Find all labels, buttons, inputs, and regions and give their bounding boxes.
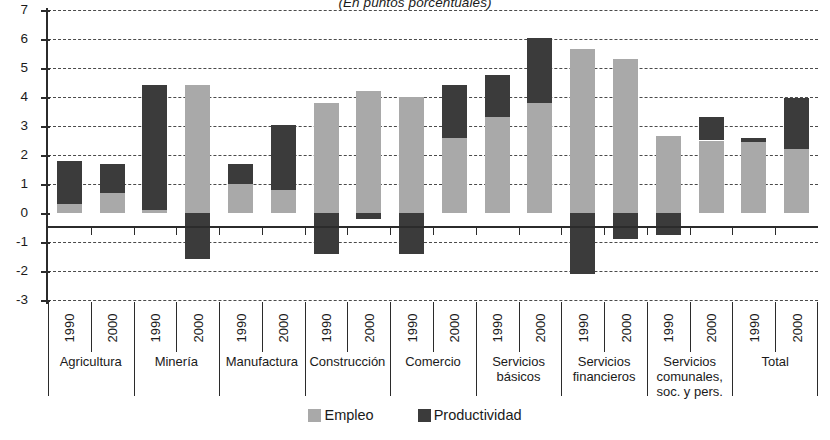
bar-segment-empleo [57,204,82,213]
axis-divider-inner [775,302,776,352]
axis-divider-group [305,302,306,396]
bar-segment-empleo [399,97,424,213]
bar [527,10,552,300]
year-axis-label-cell: 2000 [528,304,552,352]
bar [271,10,296,300]
year-axis-label-cell: 2000 [100,304,124,352]
y-axis-tick-mark [41,271,50,273]
bar-segment-empleo [356,91,381,213]
year-axis-label-cell: 1990 [656,304,680,352]
year-axis-label-cell: 1990 [229,304,253,352]
year-axis-label-cell: 1990 [314,304,338,352]
y-axis-tick-mark [41,68,50,70]
legend-item[interactable]: Productividad [418,408,522,423]
bar [100,10,125,300]
year-axis-label: 2000 [106,314,119,343]
legend-item[interactable]: Empleo [308,408,373,423]
year-axis-label: 1990 [662,314,675,343]
bar-segment-empleo [185,85,210,213]
year-axis-label-cell: 1990 [57,304,81,352]
bar-segment-productividad [228,164,253,184]
bar-segment-productividad [741,138,766,142]
y-axis-tick-mark [41,184,50,186]
category-label: Agricultura [48,355,134,370]
axis-divider-group [219,302,220,396]
bar-segment-productividad [527,38,552,103]
axis-divider-inner [690,302,691,352]
year-axis-label-cell: 2000 [186,304,210,352]
year-axis-label-cell: 2000 [357,304,381,352]
axis-divider-inner [262,302,263,352]
year-axis-label: 2000 [277,314,290,343]
bar [784,10,809,300]
year-axis-label: 1990 [320,314,333,343]
dark-gray-swatch [418,409,431,422]
bar-segment-empleo [527,103,552,213]
bar [57,10,82,300]
year-axis-label-cell: 2000 [699,304,723,352]
y-axis-tick-label: 7 [0,3,28,17]
y-axis-tick-label: 1 [0,177,28,191]
axis-divider-group [390,302,391,396]
y-axis-tick-mark [41,97,50,99]
category-label-line: Servicios [647,355,733,370]
y-axis-tick-mark [41,242,50,244]
bar [741,10,766,300]
bar-segment-empleo [314,103,339,213]
bar [613,10,638,300]
category-label: Minería [134,355,220,370]
bar-segment-empleo [442,138,467,213]
category-label: Serviciosfinancieros [561,355,647,385]
axis-divider-inner [519,302,520,352]
bar-segment-productividad [100,164,125,193]
y-axis-tick-label: 0 [0,206,28,220]
bar-segment-empleo [656,136,681,213]
year-axis-label: 2000 [705,314,718,343]
year-axis-label: 2000 [191,314,204,343]
year-axis-label: 1990 [234,314,247,343]
category-label: Construcción [305,355,391,370]
bar [185,10,210,300]
bar-segment-productividad [784,98,809,149]
category-label-line: básicos [476,370,562,385]
bar-segment-productividad [485,75,510,117]
bar-segment-empleo [100,193,125,213]
y-axis-tick-mark [41,10,50,12]
zero-axis-line [46,226,818,228]
y-axis-tick-label: 3 [0,119,28,133]
year-axis-label-cell: 2000 [785,304,809,352]
category-axis: 1990200019902000199020001990200019902000… [48,302,818,398]
bar [570,10,595,300]
axis-divider-inner [604,302,605,352]
axis-divider-inner [433,302,434,352]
bar-segment-productividad [699,117,724,140]
bar [442,10,467,300]
category-label-line: Manufactura [219,355,305,370]
y-axis-tick-label: 5 [0,61,28,75]
y-axis-tick-label: -2 [0,264,28,278]
axis-divider-inner [347,302,348,352]
bar-segment-empleo [142,210,167,213]
bar-segment-productividad [314,213,339,254]
bar [356,10,381,300]
bar [699,10,724,300]
year-axis-label: 1990 [405,314,418,343]
year-axis-label: 2000 [448,314,461,343]
axis-divider-inner [176,302,177,352]
year-axis-label: 1990 [148,314,161,343]
chart-container: (En puntos porcentuales) 76543210-1-2-3 … [0,0,830,440]
category-label-line: Minería [134,355,220,370]
category-label-line: Agricultura [48,355,134,370]
year-axis-label: 2000 [619,314,632,343]
bar-segment-productividad [356,213,381,219]
category-label-line: Construcción [305,355,391,370]
bar-segment-empleo [570,49,595,213]
year-axis-label-cell: 1990 [742,304,766,352]
year-axis-label: 2000 [362,314,375,343]
bar [399,10,424,300]
plot-area: 76543210-1-2-3 [48,10,818,300]
gridline [48,300,818,301]
bar-segment-empleo [741,142,766,213]
bar-segment-productividad [570,213,595,274]
category-label: Serviciosbásicos [476,355,562,385]
